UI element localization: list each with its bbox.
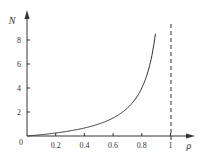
x-tick-label: 0.4 xyxy=(79,141,89,150)
y-tick-label: 4 xyxy=(17,84,21,93)
y-tick-label: 8 xyxy=(17,36,21,45)
x-tick-label: 0.8 xyxy=(137,141,147,150)
x-axis-label: ρ xyxy=(186,140,192,151)
origin-label: 0 xyxy=(19,138,23,147)
curve-series xyxy=(27,34,155,136)
chart-svg: 0.20.40.60.81 2468 0 N ρ xyxy=(0,0,207,157)
queue-length-chart: 0.20.40.60.81 2468 0 N ρ xyxy=(0,0,207,157)
y-ticks: 2468 xyxy=(17,36,30,117)
y-axis-arrow-icon xyxy=(25,10,30,19)
x-tick-label: 0.2 xyxy=(51,141,61,150)
y-tick-label: 2 xyxy=(17,108,21,117)
x-axis-arrow-icon xyxy=(186,134,195,139)
y-axis-label: N xyxy=(8,15,17,26)
x-tick-label: 0.6 xyxy=(108,141,118,150)
y-tick-label: 6 xyxy=(17,60,21,69)
x-tick-label: 1 xyxy=(169,141,173,150)
